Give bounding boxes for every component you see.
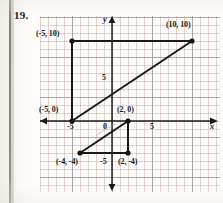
- y-axis-down-arrow-icon: [109, 184, 116, 191]
- point-label-neg5-10: (-5, 10): [36, 29, 59, 38]
- point-marker-neg5-10: [69, 38, 74, 43]
- point-label-neg4-neg4: (-4, -4): [56, 157, 78, 166]
- coordinate-plane: (-5, 10) (10, 10) (-5, 0) (2, 0) (-4, -4…: [40, 16, 220, 192]
- y-axis-label: y: [103, 14, 107, 24]
- point-marker-2-neg4: [125, 150, 130, 155]
- point-markers: [69, 38, 194, 155]
- point-label-neg5-0: (-5, 0): [39, 105, 58, 114]
- x-tick-label-5: 5: [150, 122, 154, 131]
- point-marker-2-0: [125, 118, 130, 123]
- point-marker-neg4-neg4: [77, 150, 82, 155]
- y-axis-up-arrow-icon: [109, 16, 116, 23]
- textbook-figure-page: 19.: [0, 0, 223, 203]
- page-binding-shadow: [11, 0, 14, 203]
- x-axis-label: x: [210, 121, 214, 131]
- point-label-2-neg4: (2, -4): [118, 157, 137, 166]
- point-label-10-10: (10, 10): [166, 20, 191, 29]
- point-label-2-0: (2, 0): [117, 105, 134, 114]
- problem-number: 19.: [14, 9, 28, 21]
- x-tick-label-neg5: -5: [67, 122, 74, 131]
- origin-label: 0: [103, 122, 107, 131]
- x-axis-left-arrow-icon: [40, 118, 47, 125]
- y-tick-label-5: 5: [102, 73, 106, 82]
- y-tick-label-neg5: -5: [100, 157, 107, 166]
- point-marker-10-10: [189, 38, 194, 43]
